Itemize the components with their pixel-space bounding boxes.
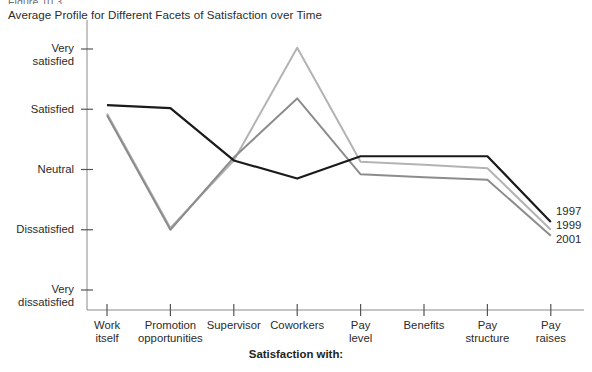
y-axis-tick-label: Neutral bbox=[0, 163, 74, 176]
series-label-1997: 1997 bbox=[556, 205, 581, 217]
x-axis-tick-label: Payraises bbox=[503, 319, 592, 345]
series-label-1999: 1999 bbox=[556, 219, 581, 231]
y-axis-tick-label: Verysatisfied bbox=[0, 42, 74, 67]
y-axis-tick-label: Satisfied bbox=[0, 103, 74, 116]
chart-series-line bbox=[107, 48, 551, 230]
chart-canvas bbox=[0, 0, 592, 372]
x-axis-title: Satisfaction with: bbox=[0, 348, 592, 360]
y-axis-tick-label: Dissatisfied bbox=[0, 223, 74, 236]
chart-series-group bbox=[107, 48, 551, 236]
chart-series-line bbox=[107, 105, 551, 222]
series-label-2001: 2001 bbox=[556, 233, 581, 245]
y-axis-tick-label: Verydissatisfied bbox=[0, 283, 74, 308]
line-chart: VerysatisfiedSatisfiedNeutralDissatisfie… bbox=[0, 0, 592, 372]
